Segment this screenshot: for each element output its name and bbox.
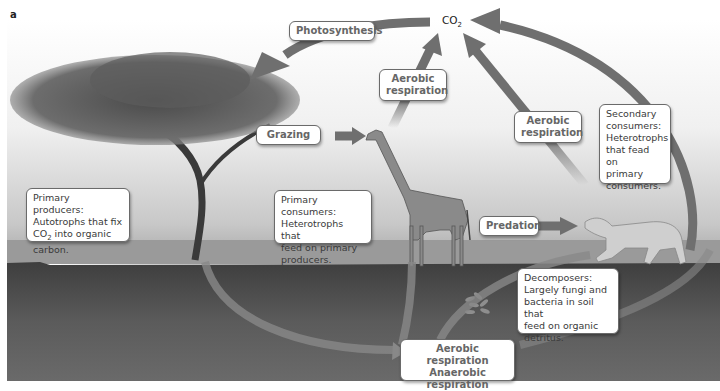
decomposers-line1: Decomposers: (524, 272, 612, 284)
grazing-label: Grazing (256, 125, 321, 145)
secondary-consumers-line6: consumers. (606, 180, 664, 192)
predator-respiration-label: Aerobic respiration (514, 111, 582, 143)
secondary-consumers-line2: consumers: (606, 120, 664, 132)
co2-subscript: 2 (458, 21, 462, 29)
co2-inline: CO (33, 228, 47, 239)
consumer-respiration-label: Aerobic respiration (379, 69, 447, 101)
primary-consumers-line3: feed on primary (281, 242, 365, 254)
primary-consumers-line4: producers. (281, 254, 365, 266)
decomposition-processes-label: Aerobic respiration Anaerobic respiratio… (400, 339, 515, 381)
decomposers-line2: Largely fungi and (524, 284, 612, 296)
primary-consumers-label: Primary consumers: Heterotrophs that fee… (274, 190, 372, 244)
decomposition-line1: Aerobic respiration (407, 343, 508, 367)
consumer-respiration-line1: Aerobic (386, 73, 440, 85)
primary-producers-line4: carbon. (33, 244, 123, 256)
secondary-consumers-line3: Heterotrophs (606, 132, 664, 144)
secondary-consumers-label: Secondary consumers: Heterotrophs that f… (599, 104, 671, 184)
secondary-consumers-line1: Secondary (606, 108, 664, 120)
predation-label: Predation (479, 216, 539, 236)
photosynthesis-label: Photosynthesis (289, 21, 375, 41)
predator-respiration-line1: Aerobic (521, 115, 575, 127)
decomposition-line2: Anaerobic respiration (407, 367, 508, 391)
decomposers-line3: bacteria in soil that (524, 296, 612, 320)
secondary-consumers-line5: primary (606, 168, 664, 180)
photosynthesis-text: Photosynthesis (296, 25, 383, 36)
co2-text: CO (442, 14, 458, 26)
grazing-text: Grazing (267, 129, 310, 140)
primary-producers-label: Primary producers: Autotrophs that fix C… (26, 188, 130, 242)
primary-producers-line1: Primary producers: (33, 192, 123, 216)
primary-producers-line3: CO2 into organic (33, 228, 123, 244)
decomposers-line5: detritus. (524, 332, 612, 344)
predation-text: Predation (486, 220, 541, 231)
line3-rest: into organic (52, 228, 112, 239)
primary-producers-line2: Autotrophs that fix (33, 216, 123, 228)
co2-label: CO2 (442, 14, 462, 29)
primary-consumers-line2: Heterotrophs that (281, 218, 365, 242)
decomposers-line4: feed on organic (524, 320, 612, 332)
consumer-respiration-line2: respiration (386, 85, 440, 97)
decomposers-label: Decomposers: Largely fungi and bacteria … (517, 268, 619, 334)
primary-consumers-line1: Primary consumers: (281, 194, 365, 218)
secondary-consumers-line4: that fead on (606, 144, 664, 168)
predator-respiration-line2: respiration (521, 127, 575, 139)
